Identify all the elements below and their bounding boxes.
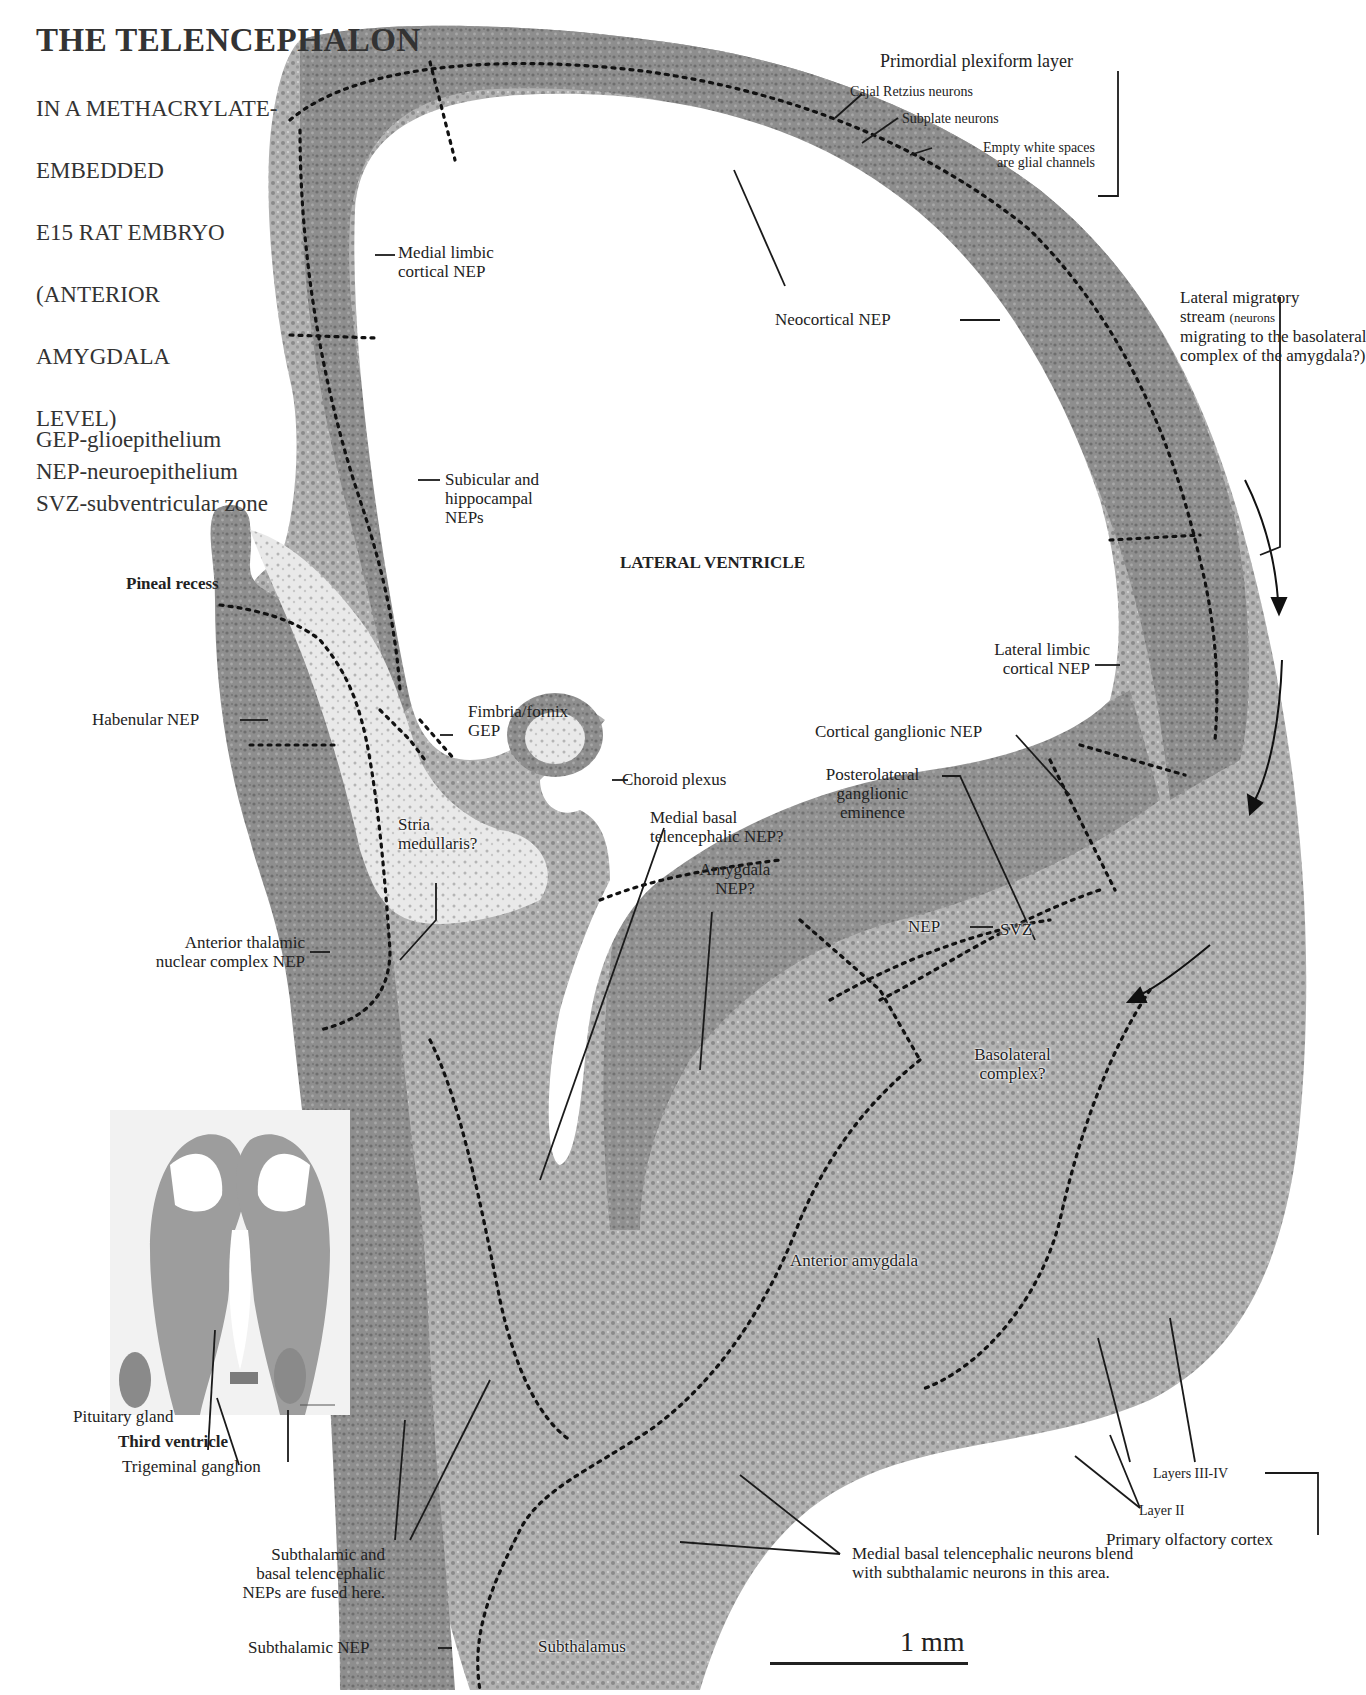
label-fimbria-fornix-gep: Fimbria/fornix GEP (468, 702, 568, 740)
legend-item: SVZ-subventricular zone (36, 488, 268, 520)
label-lateral-migratory-stream: Lateral migratory stream (neurons migrat… (1180, 288, 1366, 365)
label-medial-limbic-cortical-nep: Medial limbic cortical NEP (398, 243, 494, 281)
label-layer-ii: Layer II (1139, 1503, 1184, 1518)
label-cortical-ganglionic-nep: Cortical ganglionic NEP (815, 722, 982, 741)
figure-subtitle: IN A METHACRYLATE- EMBEDDED E15 RAT EMBR… (36, 62, 278, 465)
label-subthalamic-nep: Subthalamic NEP (248, 1638, 369, 1657)
label-nep: NEP (908, 917, 940, 936)
abbreviation-legend: GEP-glioepithelium NEP-neuroepithelium S… (36, 424, 268, 520)
label-stria-medullaris: Stria medullaris? (398, 815, 477, 853)
label-anterior-thalamic-nuclear-complex-nep: Anterior thalamic nuclear complex NEP (60, 933, 305, 971)
label-svz: SVZ (1000, 920, 1032, 939)
label-layers-iii-iv: Layers III-IV (1153, 1466, 1228, 1481)
legend-item: GEP-glioepithelium (36, 424, 268, 456)
label-lateral-limbic-cortical-nep: Lateral limbic cortical NEP (960, 640, 1090, 678)
label-trigeminal-ganglion: Trigeminal ganglion (122, 1457, 261, 1476)
label-neocortical-nep: Neocortical NEP (775, 310, 891, 329)
label-pineal-recess: Pineal recess (126, 574, 219, 593)
label-glial-channels: Empty white spaces are glial channels (935, 140, 1095, 170)
subtitle-line: E15 RAT EMBRYO (36, 217, 278, 248)
label-anterior-amygdala: Anterior amygdala (790, 1251, 918, 1270)
label-basolateral-complex: Basolateral complex? (950, 1045, 1075, 1083)
label-posterolateral-ganglionic-eminence: Posterolateral ganglionic eminence (800, 765, 945, 822)
label-amygdala-nep: Amygdala NEP? (690, 860, 780, 898)
label-medial-basal-telencephalic-nep: Medial basal telencephalic NEP? (650, 808, 784, 846)
label-choroid-plexus: Choroid plexus (622, 770, 726, 789)
label-third-ventricle: Third ventricle (118, 1432, 228, 1451)
label-subthalamus: Subthalamus (538, 1637, 626, 1656)
label-subplate-neurons: Subplate neurons (902, 111, 999, 126)
subtitle-line: AMYGDALA (36, 341, 278, 372)
label-medial-basal-neurons-blend: Medial basal telencephalic neurons blend… (852, 1544, 1133, 1582)
subtitle-line: (ANTERIOR (36, 279, 278, 310)
label-cajal-retzius-neurons: Cajal Retzius neurons (850, 84, 973, 99)
scale-bar-label: 1 mm (900, 1626, 965, 1658)
label-subicular-hippocampal-neps: Subicular and hippocampal NEPs (445, 470, 539, 527)
label-primordial-plexiform-layer: Primordial plexiform layer (880, 52, 1073, 71)
figure-title: THE TELENCEPHALON (36, 22, 421, 59)
scale-bar (770, 1662, 968, 1665)
legend-item: NEP-neuroepithelium (36, 456, 268, 488)
inset-whole-section (110, 1110, 350, 1415)
label-habenular-nep: Habenular NEP (92, 710, 199, 729)
label-subthalamic-basal-telencephalic-fused: Subthalamic and basal telencephalic NEPs… (190, 1545, 385, 1602)
label-lateral-ventricle: LATERAL VENTRICLE (620, 553, 805, 572)
label-pituitary-gland: Pituitary gland (73, 1407, 174, 1426)
subtitle-line: IN A METHACRYLATE- (36, 93, 278, 124)
subtitle-line: EMBEDDED (36, 155, 278, 186)
